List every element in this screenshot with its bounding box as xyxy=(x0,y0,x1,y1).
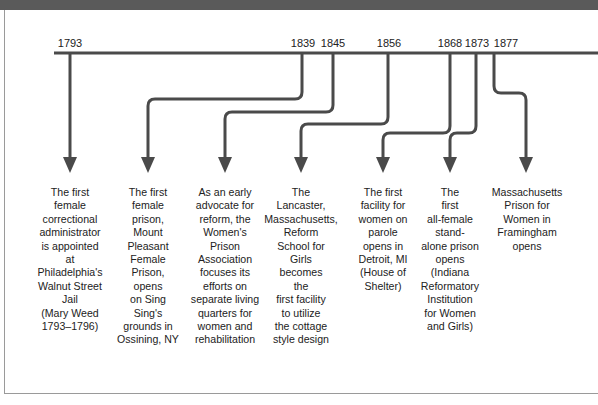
connector-1877 xyxy=(494,53,526,160)
event-description-1877: Massachusetts Prison for Women in Framin… xyxy=(482,186,572,253)
year-label-1839: 1839 xyxy=(291,37,315,49)
connector-1873 xyxy=(450,53,476,160)
event-description-1793: The first female correctional administra… xyxy=(25,186,115,333)
year-label-1868: 1868 xyxy=(438,37,462,49)
arrowhead-icon xyxy=(218,157,232,173)
arrowhead-icon xyxy=(294,157,308,173)
arrowhead-icon xyxy=(519,157,533,173)
arrowheads xyxy=(63,157,533,173)
year-label-1793: 1793 xyxy=(58,37,82,49)
year-label-1873: 1873 xyxy=(465,37,489,49)
year-label-1856: 1856 xyxy=(377,37,401,49)
year-label-1877: 1877 xyxy=(494,37,518,49)
arrowhead-icon xyxy=(63,157,77,173)
year-label-1845: 1845 xyxy=(321,37,345,49)
connector-1845 xyxy=(225,53,333,160)
arrowhead-icon xyxy=(376,157,390,173)
connector-1868 xyxy=(383,53,450,160)
arrowhead-icon xyxy=(141,157,155,173)
event-description-1856: The Lancaster, Massachusetts, Reform Sch… xyxy=(256,186,346,347)
arrowhead-icon xyxy=(443,157,457,173)
connector-1856 xyxy=(301,53,388,160)
